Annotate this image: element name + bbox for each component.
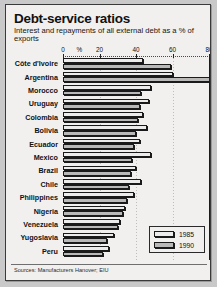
bar-1985 — [63, 192, 134, 197]
bar-group — [63, 125, 211, 136]
category-label: Uruguay — [29, 99, 58, 108]
category-label: Peru — [42, 247, 58, 256]
bar-1990 — [63, 252, 103, 257]
bar-1985 — [63, 233, 114, 238]
bar-1990 — [63, 171, 131, 176]
category-label: Philippines — [20, 193, 58, 202]
bar-group — [63, 152, 211, 163]
source-divider — [11, 264, 207, 265]
chart-source: Sources: Manufacturers Hanover; EIU — [14, 267, 109, 273]
x-tick-mark-0 — [63, 54, 64, 58]
legend-item: 1990 — [153, 241, 201, 250]
bar-1985 — [63, 206, 125, 211]
bar-1990 — [63, 118, 138, 123]
bar-group — [63, 112, 211, 123]
chart-subtitle: Interest and repayments of all external … — [14, 27, 204, 44]
chart-legend: 1985 1990 — [149, 226, 205, 253]
bar-group — [63, 85, 211, 96]
bar-group — [63, 58, 211, 69]
bar-group — [63, 192, 211, 203]
bar-1990 — [63, 104, 140, 109]
bar-group — [63, 205, 211, 216]
bar-1990 — [63, 238, 107, 243]
bar-1985 — [63, 152, 151, 157]
bar-1985 — [63, 85, 151, 90]
bar-group — [63, 179, 211, 190]
category-label: Colombia — [25, 113, 58, 122]
bar-1985 — [63, 139, 140, 144]
category-label: Nigeria — [34, 207, 58, 216]
bar-group — [63, 138, 211, 149]
category-label: Mexico — [34, 153, 58, 162]
legend-label-1985: 1985 — [179, 231, 194, 238]
category-label: Brazil — [38, 166, 58, 175]
category-label: Yugoslavia — [20, 233, 58, 242]
category-label: Morocco — [28, 86, 58, 95]
plot-right-border — [209, 55, 211, 260]
bar-1990 — [63, 144, 134, 149]
category-label: Chile — [40, 180, 58, 189]
x-tick-mark-20 — [100, 54, 101, 58]
x-tick-label-40: 40 — [132, 46, 139, 53]
chart-card: Debt-service ratios Interest and repayme… — [5, 4, 211, 281]
bar-1990 — [63, 225, 118, 230]
x-tick-mark-60 — [173, 54, 174, 58]
bar-1990 — [63, 185, 129, 190]
x-axis-unit-label: % — [77, 46, 83, 53]
bar-1990 — [63, 77, 211, 82]
category-axis-labels: Côte d'IvoireArgentinaMoroccoUruguayColo… — [6, 58, 62, 260]
legend-item: 1985 — [153, 230, 201, 239]
x-tick-label-60: 60 — [169, 46, 176, 53]
bar-1990 — [63, 131, 136, 136]
bar-group — [63, 98, 211, 109]
bar-1985 — [63, 246, 109, 251]
bar-1985 — [63, 125, 147, 130]
legend-swatch-1990 — [154, 242, 174, 249]
bar-1985 — [63, 112, 143, 117]
category-label: Bolivia — [34, 126, 58, 135]
bar-group — [63, 165, 211, 176]
x-tick-label-20: 20 — [96, 46, 103, 53]
x-tick-mark-40 — [136, 54, 137, 58]
bar-1985 — [63, 99, 149, 104]
bar-1985 — [63, 72, 173, 77]
category-label: Côte d'Ivoire — [15, 59, 58, 68]
bar-1985 — [63, 219, 120, 224]
category-label: Venezuela — [23, 220, 58, 229]
x-tick-mark-80 — [209, 54, 210, 58]
legend-label-1990: 1990 — [179, 242, 194, 249]
legend-swatch-1985 — [154, 231, 174, 238]
x-tick-label-80: 80 — [205, 46, 211, 53]
bar-1990 — [63, 198, 127, 203]
chart-title: Debt-service ratios — [14, 11, 130, 26]
bar-1990 — [63, 91, 141, 96]
image-background: Debt-service ratios Interest and repayme… — [0, 0, 217, 287]
bar-1985 — [63, 179, 141, 184]
bar-1990 — [63, 64, 171, 69]
bar-1990 — [63, 158, 132, 163]
bar-group — [63, 71, 211, 82]
category-label: Ecuador — [29, 140, 58, 149]
x-tick-label-0: 0 — [61, 46, 65, 53]
bar-1990 — [63, 211, 123, 216]
bar-1985 — [63, 58, 143, 63]
bar-1985 — [63, 166, 136, 171]
category-label: Argentina — [24, 73, 58, 82]
